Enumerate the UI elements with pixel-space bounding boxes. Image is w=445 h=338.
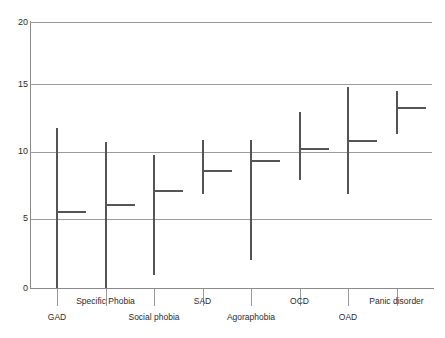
- x-axis-label: Agoraphobia: [227, 312, 275, 322]
- y-tick-label-10: 10: [2, 147, 28, 156]
- x-axis-tick: [348, 289, 349, 306]
- y-axis-tick-labels: 20 15 10 5 0: [0, 0, 28, 338]
- x-axis-label: Social phobia: [128, 312, 179, 322]
- y-tick-label-0: 0: [2, 284, 28, 293]
- y-tick-label-5: 5: [2, 214, 28, 223]
- x-axis-label: GAD: [48, 312, 66, 322]
- gridline-20: [30, 22, 432, 23]
- y-axis-line: [30, 21, 31, 289]
- point-estimate-tick: [56, 211, 86, 213]
- range-bar: [299, 112, 301, 180]
- y-tick-label-15: 15: [2, 80, 28, 89]
- gridline-10: [30, 152, 432, 153]
- range-bar: [250, 140, 252, 260]
- x-axis-label: SAD: [194, 296, 211, 306]
- x-axis-line: [30, 288, 434, 289]
- point-estimate-tick: [347, 140, 377, 142]
- point-estimate-tick: [105, 204, 135, 206]
- x-axis-label: Specific Phobia: [76, 296, 135, 306]
- point-estimate-tick: [396, 107, 426, 109]
- range-bar: [396, 91, 398, 134]
- range-bar: [56, 128, 58, 288]
- point-estimate-tick: [250, 160, 280, 162]
- x-axis-tick: [154, 289, 155, 306]
- gridline-5: [30, 219, 432, 220]
- point-estimate-tick: [202, 170, 232, 172]
- point-estimate-tick: [299, 148, 329, 150]
- gridline-15: [30, 84, 432, 85]
- range-chart: 20 15 10 5 0 GADSpecific PhobiaSocial ph…: [0, 0, 445, 338]
- range-bar: [105, 142, 107, 288]
- x-axis-label: OAD: [339, 312, 357, 322]
- range-bar: [202, 140, 204, 193]
- x-axis-label: OCD: [290, 296, 309, 306]
- y-tick-label-20: 20: [2, 18, 28, 27]
- x-axis-label: Panic disorder: [369, 296, 423, 306]
- x-axis-tick: [57, 289, 58, 306]
- range-bar: [153, 155, 155, 275]
- point-estimate-tick: [153, 190, 183, 192]
- x-axis-tick: [251, 289, 252, 306]
